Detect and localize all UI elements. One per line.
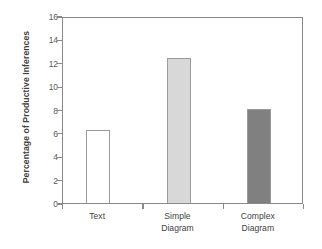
x-tick-mark: [223, 204, 224, 209]
y-tick-label: 8: [0, 105, 58, 117]
bar-complex-diagram: [247, 109, 271, 204]
x-axis-line: [62, 203, 303, 204]
x-axis-label-line: Simple: [133, 211, 223, 223]
y-tick-label: 14: [0, 34, 58, 46]
y-tick-label: 2: [0, 175, 58, 187]
bar-chart-figure: Percentage of Productive Inferences 0246…: [0, 0, 322, 249]
y-tick-label: 4: [0, 151, 58, 163]
x-tick-mark: [142, 204, 143, 209]
y-tick-label: 10: [0, 81, 58, 93]
bar-simple-diagram: [167, 58, 191, 204]
y-tick-label: 6: [0, 128, 58, 140]
x-axis-label-line: Text: [52, 211, 142, 223]
plot-area: [62, 17, 303, 204]
x-tick-mark: [62, 204, 63, 209]
bar-text: [86, 130, 110, 204]
x-axis-label: ComplexDiagram: [213, 211, 303, 234]
x-axis-label-line: Diagram: [133, 223, 223, 235]
x-tick-mark: [303, 204, 304, 209]
y-tick-label: 16: [0, 11, 58, 23]
x-axis-label: SimpleDiagram: [133, 211, 223, 234]
x-axis-label-line: Complex: [213, 211, 303, 223]
y-tick-label: 0: [0, 198, 58, 210]
x-axis-label: Text: [52, 211, 142, 223]
x-axis-label-line: Diagram: [213, 223, 303, 235]
y-tick-label: 12: [0, 58, 58, 70]
